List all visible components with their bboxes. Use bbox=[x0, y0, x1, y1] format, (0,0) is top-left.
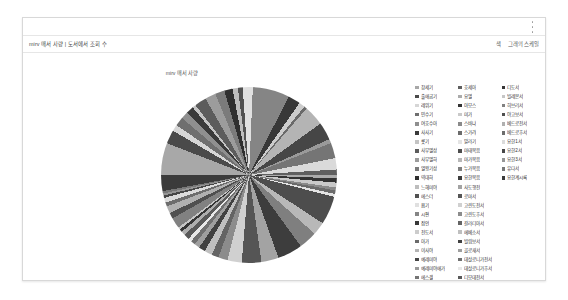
legend-swatch-icon bbox=[458, 113, 462, 117]
legend-item[interactable]: 누가복음 bbox=[458, 164, 497, 173]
legend-item[interactable]: 로마서 bbox=[458, 192, 497, 201]
legend-swatch-icon bbox=[415, 122, 419, 126]
legend-label: 사무엘하 bbox=[421, 155, 437, 164]
legend-item[interactable]: 이사야 bbox=[415, 246, 454, 255]
legend-item[interactable]: 느헤미야 bbox=[415, 183, 454, 192]
legend-item[interactable]: 스가랴 bbox=[458, 128, 497, 137]
legend-label: 요한계시록 bbox=[507, 173, 527, 182]
legend-swatch-icon bbox=[458, 194, 462, 198]
legend-item[interactable]: 디모데전서 bbox=[458, 273, 497, 280]
legend-label: 에스더 bbox=[421, 192, 433, 201]
legend-item[interactable]: 사사기 bbox=[415, 128, 454, 137]
legend-label: 유다서 bbox=[507, 164, 519, 173]
legend-item[interactable]: 요한계시록 bbox=[502, 173, 541, 182]
legend-item[interactable]: 여호수아 bbox=[415, 119, 454, 128]
legend-swatch-icon bbox=[502, 122, 506, 126]
legend-swatch-icon bbox=[458, 140, 462, 144]
legend-label: 느헤미야 bbox=[421, 183, 437, 192]
legend-item[interactable]: 룻기 bbox=[415, 137, 454, 146]
legend-swatch-icon bbox=[502, 113, 506, 117]
legend-item[interactable]: 에스더 bbox=[415, 192, 454, 201]
legend-item[interactable]: 골로새서 bbox=[458, 246, 497, 255]
legend-item[interactable]: 에베소서 bbox=[458, 228, 497, 237]
legend-label: 아모스 bbox=[464, 101, 476, 110]
legend-item[interactable]: 역대하 bbox=[415, 173, 454, 182]
legend-swatch-icon bbox=[415, 158, 419, 162]
legend-item[interactable]: 마태복음 bbox=[458, 146, 497, 155]
legend-swatch-icon bbox=[458, 267, 462, 271]
legend-item[interactable]: 아가 bbox=[415, 237, 454, 246]
legend-item[interactable]: 창세기 bbox=[415, 83, 454, 92]
color-option-link[interactable]: 색 bbox=[496, 40, 501, 48]
legend-label: 마태복음 bbox=[464, 146, 480, 155]
legend-item[interactable]: 시편 bbox=[415, 210, 454, 219]
panel-title-bar: mirv 매서 사량 | 도서에서 조회 수 색 그래의 스케일 bbox=[23, 35, 545, 53]
legend-label: 빌레몬서 bbox=[507, 92, 523, 101]
legend-item[interactable]: 베드로전서 bbox=[502, 119, 541, 128]
legend-item[interactable]: 베드로후서 bbox=[502, 128, 541, 137]
legend-item[interactable]: 요엘 bbox=[458, 92, 497, 101]
chart-title-text: mirv 매서 사량 bbox=[166, 70, 199, 76]
legend-label: 고린도후서 bbox=[464, 210, 484, 219]
legend-item[interactable]: 히브리서 bbox=[502, 101, 541, 110]
legend-item[interactable]: 요한3서 bbox=[502, 155, 541, 164]
legend-item[interactable]: 전도서 bbox=[415, 228, 454, 237]
legend-item[interactable]: 사무엘하 bbox=[415, 155, 454, 164]
legend-item[interactable]: 아모스 bbox=[458, 101, 497, 110]
legend-item[interactable]: 미가 bbox=[458, 110, 497, 119]
legend-item[interactable]: 예레미야 bbox=[415, 255, 454, 264]
legend-item[interactable]: 예레미야애가 bbox=[415, 264, 454, 273]
legend-label: 예레미야애가 bbox=[421, 264, 445, 273]
kebab-menu-icon[interactable] bbox=[528, 21, 537, 33]
legend-item[interactable]: 디도서 bbox=[502, 83, 541, 92]
legend-swatch-icon bbox=[415, 176, 419, 180]
pie-chart-surface[interactable] bbox=[161, 87, 337, 263]
legend-item[interactable]: 출애굽기 bbox=[415, 92, 454, 101]
legend-item[interactable]: 마가복음 bbox=[458, 155, 497, 164]
legend-item[interactable]: 민수기 bbox=[415, 110, 454, 119]
legend-item[interactable]: 요한1서 bbox=[502, 137, 541, 146]
legend-swatch-icon bbox=[502, 86, 506, 90]
legend-item[interactable]: 레위기 bbox=[415, 101, 454, 110]
legend-item[interactable]: 열왕기상 bbox=[415, 164, 454, 173]
legend-label: 창세기 bbox=[421, 83, 433, 92]
legend-item[interactable]: 잠언 bbox=[415, 219, 454, 228]
legend-label: 열왕기상 bbox=[421, 164, 437, 173]
legend-swatch-icon bbox=[458, 221, 462, 225]
legend-item[interactable]: 빌레몬서 bbox=[502, 92, 541, 101]
legend-swatch-icon bbox=[458, 258, 462, 262]
legend-swatch-icon bbox=[415, 276, 419, 280]
gray-scale-option-link[interactable]: 그래의 스케일 bbox=[508, 40, 540, 48]
legend-item[interactable]: 야고보서 bbox=[502, 110, 541, 119]
legend-item[interactable]: 고린도전서 bbox=[458, 201, 497, 210]
legend-item[interactable]: 데살로니가후서 bbox=[458, 264, 497, 273]
legend-item[interactable]: 갈라디아서 bbox=[458, 219, 497, 228]
legend-item[interactable]: 빌립보서 bbox=[458, 237, 497, 246]
legend-swatch-icon bbox=[415, 167, 419, 171]
legend-label: 사사기 bbox=[421, 128, 433, 137]
chart-legend: 창세기출애굽기레위기민수기여호수아사사기룻기사무엘상사무엘하열왕기상역대하느헤미… bbox=[415, 83, 541, 276]
legend-item[interactable]: 사무엘상 bbox=[415, 146, 454, 155]
legend-label: 고린도전서 bbox=[464, 201, 484, 210]
legend-swatch-icon bbox=[502, 95, 506, 99]
legend-label: 역대하 bbox=[421, 173, 433, 182]
legend-item[interactable]: 호세아 bbox=[458, 83, 497, 92]
legend-item[interactable]: 데살로니가전서 bbox=[458, 255, 497, 264]
legend-label: 에스겔 bbox=[421, 273, 433, 280]
legend-item[interactable]: 말라기 bbox=[458, 137, 497, 146]
legend-item[interactable]: 욥기 bbox=[415, 201, 454, 210]
legend-label: 야고보서 bbox=[507, 110, 523, 119]
legend-item[interactable]: 유다서 bbox=[502, 164, 541, 173]
legend-item[interactable]: 요한2서 bbox=[502, 146, 541, 155]
legend-item[interactable]: 요한복음 bbox=[458, 173, 497, 182]
legend-label: 아가 bbox=[421, 237, 429, 246]
legend-swatch-icon bbox=[415, 249, 419, 253]
legend-item[interactable]: 고린도후서 bbox=[458, 210, 497, 219]
legend-item[interactable]: 에스겔 bbox=[415, 273, 454, 280]
legend-swatch-icon bbox=[415, 149, 419, 153]
legend-swatch-icon bbox=[458, 203, 462, 207]
legend-item[interactable]: 스바냐 bbox=[458, 119, 497, 128]
legend-item[interactable]: 사도행전 bbox=[458, 183, 497, 192]
legend-swatch-icon bbox=[502, 158, 506, 162]
legend-swatch-icon bbox=[458, 95, 462, 99]
